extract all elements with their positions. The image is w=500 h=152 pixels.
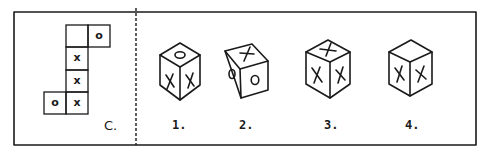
option-label-2: 2. xyxy=(239,118,253,132)
x-mark-left xyxy=(166,74,174,89)
x-mark-left xyxy=(312,67,322,83)
x-mark-top xyxy=(320,43,336,56)
net-mark-x-2: x xyxy=(66,70,88,92)
o-mark-right xyxy=(251,76,259,85)
x-mark-right xyxy=(336,67,345,83)
net-mark-x-3: x xyxy=(66,92,88,114)
option-label-3: 3. xyxy=(324,118,338,132)
net-label: C. xyxy=(104,118,117,133)
o-mark-top xyxy=(175,52,185,58)
x-mark-right xyxy=(416,66,426,82)
x-mark-right xyxy=(186,73,194,88)
x-mark-left xyxy=(395,66,404,82)
option-label-4: 4. xyxy=(405,118,419,132)
option-label-1: 1. xyxy=(172,118,186,132)
cube-option-4 xyxy=(389,40,432,96)
cube-option-3 xyxy=(306,40,350,98)
net-cell-blank xyxy=(66,25,88,47)
cube-option-2 xyxy=(225,44,268,98)
net-mark-o-left: o xyxy=(44,92,66,114)
net-mark-x-1: x xyxy=(66,47,88,69)
cube-option-1 xyxy=(160,43,200,100)
net-mark-o-top: o xyxy=(88,25,110,47)
x-mark-top xyxy=(240,47,254,61)
